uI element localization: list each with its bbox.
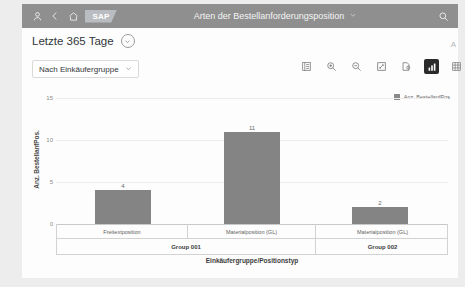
time-filter-label: Letzte 365 Tage: [32, 35, 114, 47]
shell-title[interactable]: Arten der Bestellanforderungsposition: [117, 11, 434, 21]
bar-materialposition-g1[interactable]: 11: [224, 132, 280, 224]
edge-glyph: A: [451, 40, 456, 49]
y-axis-title: Anz. BestellanfPos.: [33, 130, 40, 190]
settings-icon[interactable]: [399, 59, 414, 74]
group-axis: Group 001 Group 002: [56, 239, 448, 255]
y-tick-5: 5: [40, 179, 53, 185]
chevron-down-icon: [125, 65, 132, 74]
chevron-down-circle-icon[interactable]: [121, 34, 135, 48]
chart-toolbar: Nach Einkäufergruppe: [32, 60, 458, 82]
group-label-002: Group 002: [315, 239, 449, 255]
content-card: Letzte 365 Tage A Nach Einkäufergruppe: [22, 28, 458, 278]
bar-chart-icon[interactable]: [424, 59, 439, 74]
fullscreen-icon[interactable]: [374, 59, 389, 74]
y-tick-15: 15: [40, 95, 53, 101]
dimension-select-button[interactable]: Nach Einkäufergruppe: [32, 60, 139, 78]
zoom-out-icon[interactable]: [349, 59, 364, 74]
bar-value-label: 4: [95, 183, 151, 189]
app-page: SAP Arten der Bestellanforderungspositio…: [0, 0, 465, 287]
category-label-freitextposition: Freitextposition: [57, 224, 187, 239]
person-icon[interactable]: [28, 7, 46, 25]
back-chevron-icon[interactable]: [46, 7, 64, 25]
dimension-select-label: Nach Einkäufergruppe: [39, 65, 119, 74]
home-icon[interactable]: [64, 7, 82, 25]
bar-rect: [95, 190, 151, 224]
category-axis: Freitextposition Materialposition (GL) M…: [56, 224, 448, 239]
chevron-down-icon: [349, 11, 357, 21]
table-grid-icon[interactable]: [449, 59, 464, 74]
bar-value-label: 2: [352, 200, 408, 206]
plot-area: 15 10 5 0 4 11 2: [56, 98, 448, 224]
y-tick-10: 10: [40, 137, 53, 143]
bar-chart: Anz. BestellanfPos. 15 10 5 0 4: [22, 84, 458, 278]
toolbar-icon-group: [299, 59, 464, 74]
group-label-001: Group 001: [57, 239, 315, 255]
time-filter[interactable]: Letzte 365 Tage: [32, 34, 135, 48]
category-label-materialposition-g1: Materialposition (GL): [187, 224, 315, 239]
search-icon[interactable]: [434, 7, 452, 25]
bar-rect: [224, 132, 280, 224]
bar-freitextposition-g1[interactable]: 4: [95, 190, 151, 224]
legend-icon[interactable]: [299, 59, 314, 74]
sap-logo: SAP: [85, 10, 117, 23]
shell-title-text: Arten der Bestellanforderungsposition: [194, 11, 345, 21]
x-axis-title: Einkäufergruppe/Positionstyp: [56, 257, 448, 264]
category-label-materialposition-g2: Materialposition (GL): [315, 224, 449, 239]
y-tick-0: 0: [40, 221, 53, 227]
zoom-in-icon[interactable]: [324, 59, 339, 74]
bar-value-label: 11: [224, 125, 280, 131]
bar-rect: [352, 207, 408, 224]
bar-materialposition-g2[interactable]: 2: [352, 207, 408, 224]
shell-bar: SAP Arten der Bestellanforderungspositio…: [22, 4, 458, 28]
bar-group: 4 11 2: [56, 98, 448, 224]
